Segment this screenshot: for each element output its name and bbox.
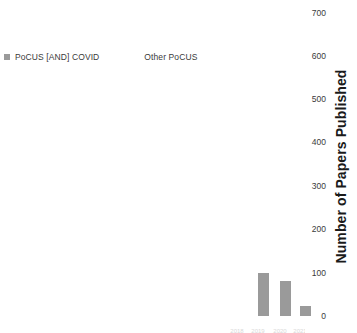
bar-chart-figure: PoCUS [AND] COVID Other PoCUS 7006005004… <box>0 0 357 333</box>
x-axis: 2018201920202021 <box>0 328 305 333</box>
x-axis-tick-label: 2019 <box>251 328 264 333</box>
y-axis-tick-label: 400 <box>296 137 326 147</box>
x-axis-tick-label: 2020 <box>273 328 286 333</box>
y-axis-tick-label: 200 <box>296 224 326 234</box>
bar-series-pocus-and-covid <box>0 0 305 333</box>
bar[interactable] <box>280 281 291 316</box>
y-axis-tick-label: 300 <box>296 181 326 191</box>
bar[interactable] <box>258 273 269 316</box>
y-axis: 7006005004003002001000 <box>296 0 326 333</box>
y-axis-tick-label: 700 <box>296 8 326 18</box>
y-axis-title: Number of Papers Published <box>327 0 355 333</box>
x-axis-tick-label: 2021 <box>293 328 305 333</box>
y-axis-tick-label: 100 <box>296 268 326 278</box>
y-axis-tick-label: 500 <box>296 94 326 104</box>
y-axis-tick-label: 0 <box>296 311 326 321</box>
x-axis-tick-label: 2018 <box>230 328 243 333</box>
y-axis-tick-label: 600 <box>296 51 326 61</box>
plot-area <box>0 0 305 333</box>
